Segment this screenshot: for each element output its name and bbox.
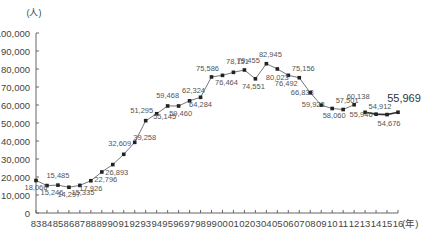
line-chart: (人) 010,00020,00030,00040,00050,00060,00…: [0, 0, 424, 237]
data-point-marker: [34, 179, 38, 183]
x-tick-label: 00: [217, 218, 228, 229]
x-tick-label: 14: [371, 218, 382, 229]
data-label: 58,060: [323, 111, 346, 120]
x-axis: 8384858687888990919293949596979899000102…: [31, 210, 419, 229]
x-tick-label: 94: [151, 218, 162, 229]
x-tick-label: 03: [250, 218, 261, 229]
data-point-marker: [297, 76, 301, 80]
x-tick-label: 04: [261, 218, 272, 229]
data-point-marker: [122, 153, 126, 157]
data-label: 76,464: [215, 78, 238, 87]
x-tick-label: 92: [129, 218, 140, 229]
data-point-marker: [144, 119, 148, 123]
data-label: 51,295: [130, 106, 153, 115]
data-label: 39,258: [133, 133, 156, 142]
data-label: 55,946: [350, 110, 373, 119]
data-point-marker: [67, 185, 71, 189]
data-label: 59,468: [156, 91, 179, 100]
x-tick-label: 98: [195, 218, 206, 229]
data-label: 15,485: [46, 171, 69, 180]
data-label: 66,833: [291, 88, 314, 97]
y-tick-label: 70,000: [1, 82, 30, 93]
x-tick-label: 85: [53, 218, 64, 229]
data-label: 32,609: [108, 139, 131, 148]
data-label: 64,284: [189, 100, 212, 109]
x-tick-label: 10: [327, 218, 338, 229]
x-tick-label: 89: [97, 218, 108, 229]
data-label: 62,324: [182, 86, 205, 95]
y-tick-label: 80,000: [1, 64, 30, 75]
data-label: 54,676: [378, 119, 401, 128]
x-tick-label: 01: [228, 218, 239, 229]
data-label: 17,926: [79, 184, 102, 193]
data-label: 75,156: [292, 64, 315, 73]
x-tick-label: 11: [338, 218, 348, 229]
data-label: 59,460: [169, 109, 192, 118]
data-point-marker: [254, 77, 258, 81]
data-point-marker: [276, 67, 280, 71]
data-label: 55,969: [387, 92, 421, 104]
y-axis-unit-label: (人): [27, 8, 42, 18]
x-tick-label: 05: [272, 218, 283, 229]
y-tick-label: 30,000: [1, 154, 30, 165]
x-tick-label: 15: [382, 218, 393, 229]
x-tick-label: 93: [140, 218, 151, 229]
x-tick-label: 87: [75, 218, 86, 229]
x-tick-label: 90: [107, 218, 118, 229]
y-tick-label: 90,000: [1, 46, 30, 57]
data-point-marker: [265, 62, 269, 66]
x-tick-label: 84: [42, 218, 53, 229]
y-tick-label: 100,000: [0, 28, 30, 39]
data-point-marker: [374, 112, 378, 116]
data-point-marker: [232, 71, 236, 75]
x-tick-label: 95: [162, 218, 173, 229]
y-tick-label: 20,000: [1, 172, 30, 183]
data-label: 26,893: [105, 168, 128, 177]
data-point-marker: [210, 75, 214, 79]
data-label: 75,586: [196, 64, 219, 73]
x-tick-label: 07: [294, 218, 305, 229]
x-tick-label: 13: [360, 218, 371, 229]
data-point-marker: [166, 104, 170, 108]
x-tick-label: 12: [349, 218, 360, 229]
data-point-marker: [199, 95, 203, 99]
x-tick-label: 83: [31, 218, 42, 229]
data-point-marker: [396, 110, 400, 114]
data-point-marker: [100, 170, 104, 174]
x-tick-label: 86: [64, 218, 75, 229]
y-tick-label: 50,000: [1, 118, 30, 129]
data-point-marker: [111, 163, 115, 167]
x-tick-label: 96: [173, 218, 184, 229]
x-tick-label: 97: [184, 218, 195, 229]
data-point-marker: [385, 113, 389, 117]
data-label: 74,551: [242, 82, 265, 91]
y-tick-label: 40,000: [1, 136, 30, 147]
data-label: 79,455: [237, 56, 260, 65]
data-point-marker: [221, 74, 225, 78]
x-tick-label: 06: [283, 218, 294, 229]
data-point-marker: [177, 104, 181, 108]
data-labels: 18,06615,24615,48514,29715,33517,92622,7…: [25, 50, 421, 200]
y-tick-label: 0: [25, 208, 30, 219]
x-tick-label: 08: [305, 218, 316, 229]
data-point-marker: [330, 107, 334, 111]
data-label: 60,138: [347, 92, 370, 101]
data-label: 59,923: [302, 100, 325, 109]
data-point-marker: [56, 183, 60, 187]
x-tick-label: 02: [239, 218, 250, 229]
x-tick-label: 91: [118, 218, 129, 229]
x-tick-label: 99: [206, 218, 217, 229]
x-tick-label: 09: [316, 218, 327, 229]
data-point-marker: [243, 68, 247, 72]
data-label: 82,945: [259, 50, 282, 59]
x-tick-label: 88: [86, 218, 97, 229]
data-point-marker: [89, 179, 93, 183]
x-axis-unit-label: (年): [402, 218, 418, 229]
y-tick-label: 60,000: [1, 100, 30, 111]
